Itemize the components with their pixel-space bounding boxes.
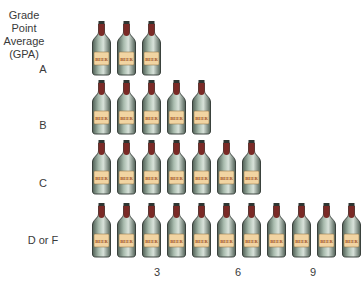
- beer-bottle-icon: BEER: [139, 79, 164, 135]
- svg-text:BEER: BEER: [170, 116, 183, 121]
- beer-bottle-icon: BEER: [239, 139, 264, 195]
- beer-bottle-icon: BEER: [139, 139, 164, 195]
- svg-text:BEER: BEER: [320, 239, 333, 244]
- beer-bottle-icon: BEER: [189, 139, 214, 195]
- svg-text:BEER: BEER: [145, 57, 158, 62]
- beer-bottle-icon: BEER: [89, 139, 114, 195]
- beer-bottle-icon: BEER: [139, 20, 164, 76]
- category-label-c: C: [0, 177, 86, 189]
- beer-bottle-icon: BEER: [114, 202, 139, 258]
- svg-text:BEER: BEER: [170, 176, 183, 181]
- svg-text:BEER: BEER: [95, 116, 108, 121]
- svg-text:BEER: BEER: [195, 116, 208, 121]
- x-tick-9: 9: [303, 266, 323, 278]
- beer-bottle-icon: BEER: [139, 202, 164, 258]
- svg-text:BEER: BEER: [195, 239, 208, 244]
- beer-bottle-icon: BEER: [164, 139, 189, 195]
- beer-bottle-icon: BEER: [114, 20, 139, 76]
- beer-bottle-icon: BEER: [114, 79, 139, 135]
- svg-text:BEER: BEER: [120, 116, 133, 121]
- svg-text:BEER: BEER: [245, 239, 258, 244]
- bottle-row-b: BEER BEER BEER BEER: [89, 79, 214, 135]
- bottle-row-c: BEER BEER BEER BEER: [89, 139, 264, 195]
- beer-bottle-icon: BEER: [289, 202, 314, 258]
- beer-bottle-icon: BEER: [89, 202, 114, 258]
- category-label-b: B: [0, 119, 86, 131]
- svg-text:BEER: BEER: [95, 57, 108, 62]
- svg-text:BEER: BEER: [145, 176, 158, 181]
- svg-text:BEER: BEER: [345, 239, 358, 244]
- y-axis-label-line: Average: [0, 35, 48, 48]
- category-label-d-or-f: D or F: [0, 234, 86, 246]
- beer-bottle-icon: BEER: [114, 139, 139, 195]
- beer-bottle-icon: BEER: [164, 202, 189, 258]
- bottle-row-d-or-f: BEER BEER BEER BEER: [89, 202, 364, 258]
- beer-bottle-icon: BEER: [214, 139, 239, 195]
- beer-bottle-icon: BEER: [214, 202, 239, 258]
- svg-text:BEER: BEER: [145, 116, 158, 121]
- beer-bottle-icon: BEER: [189, 202, 214, 258]
- bottle-row-a: BEER BEER BEER: [89, 20, 164, 76]
- svg-text:BEER: BEER: [220, 176, 233, 181]
- beer-bottle-icon: BEER: [164, 79, 189, 135]
- svg-text:BEER: BEER: [170, 239, 183, 244]
- beer-bottle-icon: BEER: [89, 79, 114, 135]
- svg-text:BEER: BEER: [120, 239, 133, 244]
- svg-text:BEER: BEER: [270, 239, 283, 244]
- svg-text:BEER: BEER: [195, 176, 208, 181]
- x-tick-6: 6: [228, 266, 248, 278]
- beer-bottle-icon: BEER: [189, 79, 214, 135]
- y-axis-label-line: (GPA): [0, 48, 48, 61]
- svg-text:BEER: BEER: [295, 239, 308, 244]
- svg-text:BEER: BEER: [220, 239, 233, 244]
- svg-text:BEER: BEER: [95, 176, 108, 181]
- svg-text:BEER: BEER: [145, 239, 158, 244]
- category-label-a: A: [0, 63, 86, 75]
- beer-bottle-icon: BEER: [239, 202, 264, 258]
- beer-bottle-icon: BEER: [264, 202, 289, 258]
- svg-text:BEER: BEER: [245, 176, 258, 181]
- svg-text:BEER: BEER: [120, 176, 133, 181]
- y-axis-label: Grade Point Average (GPA): [0, 9, 48, 61]
- svg-text:BEER: BEER: [95, 239, 108, 244]
- beer-bottle-icon: BEER: [339, 202, 364, 258]
- beer-bottle-icon: BEER: [314, 202, 339, 258]
- y-axis-label-line: Grade Point: [0, 9, 48, 35]
- beer-bottle-icon: BEER: [89, 20, 114, 76]
- x-tick-3: 3: [147, 266, 167, 278]
- svg-text:BEER: BEER: [120, 57, 133, 62]
